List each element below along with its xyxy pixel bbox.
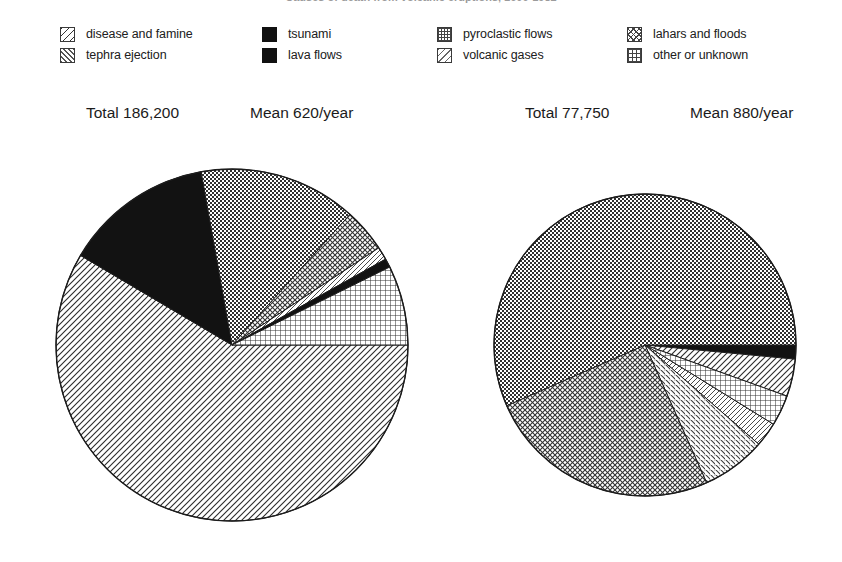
legend-item[interactable]: tsunami <box>262 24 342 45</box>
legend-item[interactable]: other or unknown <box>627 45 748 66</box>
pie-slice[interactable] <box>645 345 787 424</box>
pie-outline <box>494 194 796 496</box>
pie-slice[interactable] <box>507 345 707 496</box>
pie-slice[interactable] <box>232 214 379 345</box>
left-pie <box>56 169 408 521</box>
pie-slice[interactable] <box>645 345 796 359</box>
legend-item[interactable]: lava flows <box>262 45 342 66</box>
legend-item[interactable]: tephra ejection <box>60 45 193 66</box>
pie-charts-svg <box>0 0 842 562</box>
pie-slice[interactable] <box>232 248 386 345</box>
legend-item[interactable]: pyroclastic flows <box>437 24 552 45</box>
legend: disease and faminetephra ejectiontsunami… <box>0 24 842 70</box>
legend-swatch-solid-icon <box>262 48 277 63</box>
pie-slice[interactable] <box>645 345 795 396</box>
legend-swatch-dots-icon <box>437 27 452 42</box>
legend-item-label: volcanic gases <box>463 49 544 62</box>
legend-swatch-diag-fwd-icon <box>60 48 75 63</box>
legend-item-label: disease and famine <box>86 28 193 41</box>
pie-charts-container <box>0 0 842 562</box>
pie-caption: Total 186,200 <box>86 104 179 122</box>
legend-column-4: lahars and floodsother or unknown <box>627 24 748 66</box>
legend-swatch-solid-icon <box>262 27 277 42</box>
legend-swatch-grid-icon <box>627 48 642 63</box>
pie-slice[interactable] <box>645 345 773 444</box>
page-title: Causes of death from volcanic eruptions,… <box>0 0 842 3</box>
legend-item-label: lava flows <box>288 49 342 62</box>
legend-swatch-cross-diag-icon <box>627 27 642 42</box>
pie-slice[interactable] <box>645 345 759 483</box>
cut-off-title-strip: Causes of death from volcanic eruptions,… <box>0 0 842 7</box>
legend-column-2: tsunamilava flows <box>262 24 342 66</box>
legend-item-label: tephra ejection <box>86 49 167 62</box>
legend-column-3: pyroclastic flowsvolcanic gases <box>437 24 552 66</box>
pie-slice[interactable] <box>232 267 408 345</box>
legend-column-1: disease and faminetephra ejection <box>60 24 193 66</box>
legend-item[interactable]: volcanic gases <box>437 45 552 66</box>
pie-outline <box>56 169 408 521</box>
pie-slice[interactable] <box>494 194 796 406</box>
legend-item[interactable]: disease and famine <box>60 24 193 45</box>
pie-caption: Total 77,750 <box>525 104 609 122</box>
legend-swatch-diag-back-icon <box>60 27 75 42</box>
pie-caption: Mean 880/year <box>690 104 793 122</box>
pie-slice[interactable] <box>201 169 350 345</box>
legend-swatch-diag-back-2-icon <box>437 48 452 63</box>
pie-caption: Mean 620/year <box>250 104 353 122</box>
legend-item-label: lahars and floods <box>653 28 747 41</box>
pie-slice[interactable] <box>232 259 390 345</box>
legend-item-label: tsunami <box>288 28 331 41</box>
right-pie <box>494 194 796 496</box>
legend-item-label: pyroclastic flows <box>463 28 552 41</box>
pie-slice[interactable] <box>81 172 232 345</box>
pie-slice[interactable] <box>56 255 408 521</box>
legend-item[interactable]: lahars and floods <box>627 24 748 45</box>
legend-item-label: other or unknown <box>653 49 748 62</box>
